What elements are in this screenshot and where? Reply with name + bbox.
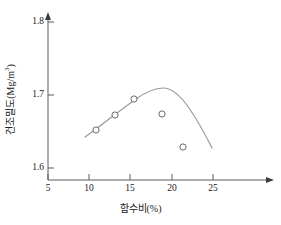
x-tick-label-20: 20	[162, 183, 182, 193]
x-axis-arrow-icon	[266, 177, 274, 183]
data-point	[93, 127, 99, 133]
y-tick-label-1-7: 1.7	[12, 89, 44, 99]
x-tick-label-10: 10	[79, 183, 99, 193]
data-point-markers	[93, 96, 186, 150]
y-axis-title-main: 건조밀도(Mg/m	[5, 71, 16, 135]
x-axis-ticks	[48, 174, 213, 180]
y-axis-ticks	[48, 22, 54, 168]
y-tick-label-1-6: 1.6	[12, 162, 44, 172]
y-axis-arrow-icon	[45, 12, 51, 20]
data-point	[159, 111, 165, 117]
y-axis-title-close: )	[5, 64, 16, 67]
compaction-curve-chart: 1.8 1.7 1.6 5 10 15 20 25 함수비(%) 건조밀도(Mg…	[0, 0, 281, 225]
data-curve	[85, 88, 212, 148]
data-point	[112, 112, 118, 118]
y-tick-label-1-8: 1.8	[12, 16, 44, 26]
x-axis-title: 함수비(%)	[0, 200, 281, 215]
x-tick-label-5: 5	[38, 183, 58, 193]
x-tick-label-25: 25	[203, 183, 223, 193]
y-axis-title: 건조밀도(Mg/m3)	[2, 25, 17, 175]
y-axis-title-exponent: 3	[3, 68, 11, 72]
x-tick-label-15: 15	[120, 183, 140, 193]
data-point	[131, 96, 137, 102]
data-point	[180, 144, 186, 150]
